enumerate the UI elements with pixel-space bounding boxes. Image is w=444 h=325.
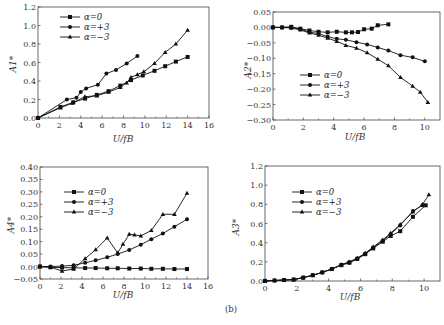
chart-A4-y-tick-label: 0.10 bbox=[20, 238, 38, 247]
chart-A1-data-point bbox=[104, 72, 108, 76]
chart-A2-data-point bbox=[370, 27, 374, 31]
chart-A4-x-tick-label: 14 bbox=[182, 282, 192, 291]
chart-A4-data-point bbox=[185, 217, 189, 221]
chart-A2-series-line-2 bbox=[273, 27, 428, 102]
chart-A1-data-point bbox=[96, 83, 100, 87]
chart-A3-legend-label: α=+3 bbox=[316, 197, 341, 207]
chart-A1-data-point bbox=[74, 96, 78, 100]
chart-A1-data-point bbox=[114, 68, 118, 72]
chart-A2-data-point bbox=[355, 40, 359, 44]
chart-A4-data-point bbox=[172, 225, 176, 229]
chart-A1-x-axis-title: U/fB bbox=[113, 134, 134, 144]
chart-A2-data-point bbox=[356, 30, 360, 34]
chart-A2-x-tick-label: 2 bbox=[301, 123, 306, 132]
chart-A2-data-point bbox=[326, 30, 330, 34]
chart-A3-y-tick-label: 1.0 bbox=[250, 181, 263, 190]
chart-A1-y-axis-title: A1* bbox=[8, 55, 18, 73]
chart-A2-data-point bbox=[386, 63, 391, 67]
chart-A1-data-point bbox=[84, 86, 88, 90]
chart-A1-data-point bbox=[185, 28, 190, 32]
chart-A2-data-point bbox=[386, 22, 390, 26]
chart-A4-y-tick-label: 0.25 bbox=[20, 200, 38, 209]
chart-A4-data-point bbox=[139, 243, 143, 247]
chart-A2-data-point bbox=[362, 27, 366, 31]
chart-A4-x-tick-label: 2 bbox=[58, 282, 63, 291]
chart-A4-data-point bbox=[185, 191, 190, 195]
chart-A1-x-tick-label: 6 bbox=[100, 121, 105, 130]
chart-A3-x-tick-label: 4 bbox=[326, 284, 331, 293]
chart-A4-data-point bbox=[127, 232, 132, 236]
chart-A4-y-tick-label: 0.40 bbox=[20, 163, 38, 172]
chart-A1-x-tick-label: 16 bbox=[204, 121, 214, 130]
chart-A3-data-point bbox=[427, 192, 432, 196]
chart-A2-y-axis-title: A2* bbox=[243, 61, 253, 79]
chart-A2-x-tick-label: 6 bbox=[362, 123, 367, 132]
chart-A4-data-point bbox=[172, 267, 176, 271]
chart-A3-y-tick-label: 1.2 bbox=[250, 162, 263, 171]
chart-A4-data-point bbox=[105, 266, 109, 270]
chart-A3-x-tick-label: 10 bbox=[419, 284, 429, 293]
chart-A4-x-tick-label: 4 bbox=[79, 282, 84, 291]
chart-A2-x-tick-label: 8 bbox=[392, 123, 397, 132]
chart-A4-y-tick-label: −0.05 bbox=[13, 275, 38, 284]
chart-A1-y-tick-label: 0.0 bbox=[23, 114, 36, 123]
chart-A1-x-tick-label: 0 bbox=[35, 121, 40, 130]
chart-A4-x-tick-label: 6 bbox=[100, 282, 105, 291]
chart-A1-data-point bbox=[186, 55, 190, 59]
chart-A2-y-tick-label: 0.05 bbox=[253, 8, 271, 17]
figure-canvas: (b) 02468101214160.00.20.40.60.81.01.2U/… bbox=[0, 0, 444, 325]
chart-A2-y-tick-label: −0.25 bbox=[246, 101, 271, 110]
chart-A3-series-line-0 bbox=[265, 205, 426, 281]
chart-A2-data-point bbox=[335, 30, 339, 34]
chart-A2-y-tick-label: −0.30 bbox=[246, 116, 271, 125]
chart-A2-y-tick-label: 0.00 bbox=[253, 23, 271, 32]
chart-A1-y-tick-label: 1.2 bbox=[23, 3, 36, 12]
chart-A4-data-point bbox=[60, 264, 64, 268]
chart-A3-legend-marker bbox=[300, 190, 304, 194]
chart-A1-legend-label: α=+3 bbox=[84, 22, 109, 32]
chart-A4-data-point bbox=[127, 248, 131, 252]
chart-A2-x-tick-label: 4 bbox=[331, 123, 336, 132]
chart-A4-data-point bbox=[161, 267, 165, 271]
chart-A4-data-point bbox=[83, 261, 87, 265]
chart-A4-x-tick-label: 12 bbox=[161, 282, 171, 291]
chart-A2-data-point bbox=[375, 57, 380, 61]
chart-A3-x-axis-title: U/fB bbox=[340, 292, 361, 302]
chart-A1-data-point bbox=[135, 54, 139, 58]
chart-A3-y-tick-label: 0.8 bbox=[250, 200, 263, 209]
chart-A4-series-line-1 bbox=[40, 219, 187, 266]
figure-label: (b) bbox=[225, 304, 237, 314]
chart-A3-series-line-2 bbox=[265, 195, 429, 281]
chart-A2-legend-marker bbox=[308, 73, 312, 77]
chart-A4-data-point bbox=[185, 267, 189, 271]
chart-A3-series-line-1 bbox=[265, 205, 423, 281]
chart-A4-legend-marker bbox=[72, 190, 76, 194]
chart-A4-data-point bbox=[105, 236, 110, 240]
chart-A1-data-point bbox=[65, 98, 69, 102]
chart-A1-legend-marker bbox=[68, 15, 72, 19]
chart-A1-legend-marker bbox=[68, 25, 72, 29]
chart-A4-y-tick-label: 0.15 bbox=[20, 225, 38, 234]
chart-A3-x-tick-label: 8 bbox=[390, 284, 395, 293]
chart-A2-x-axis-title: U/fB bbox=[345, 132, 366, 142]
chart-A1-y-tick-label: 0.2 bbox=[23, 96, 36, 105]
chart-A4-data-point bbox=[139, 267, 143, 271]
chart-A2-data-point bbox=[376, 45, 380, 49]
chart-A4-data-point bbox=[161, 231, 165, 235]
chart-A3-x-tick-label: 2 bbox=[294, 284, 299, 293]
chart-A4-legend-label: α=0 bbox=[88, 187, 107, 197]
chart-A1-data-point bbox=[141, 73, 145, 77]
chart-A1-x-tick-label: 4 bbox=[78, 121, 83, 130]
chart-A4-data-point bbox=[105, 255, 109, 259]
chart-A2-data-point bbox=[376, 23, 380, 27]
chart-A1-legend-label: α=−3 bbox=[84, 32, 109, 42]
chart-A3-x-tick-label: 0 bbox=[262, 284, 267, 293]
chart-A2-data-point bbox=[399, 53, 403, 57]
chart-A3-y-tick-label: 0.4 bbox=[250, 239, 263, 248]
chart-A4-y-tick-label: 0.00 bbox=[20, 263, 38, 272]
chart-A1-y-tick-label: 0.4 bbox=[23, 77, 36, 86]
chart-A2-legend-label: α=−3 bbox=[324, 90, 349, 100]
chart-A4-legend-marker bbox=[72, 200, 76, 204]
chart-A4-x-tick-label: 10 bbox=[140, 282, 150, 291]
chart-A1-data-point bbox=[152, 69, 156, 73]
